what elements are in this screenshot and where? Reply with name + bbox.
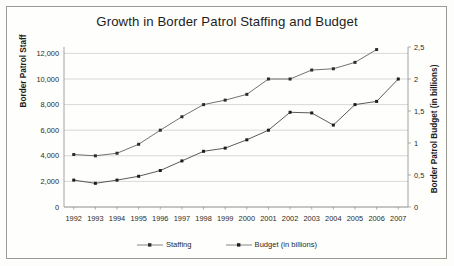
y-axis-left-tick-label: 4,000: [19, 151, 59, 160]
data-point: [202, 150, 205, 153]
y-axis-left-title: Border Patrol Staff: [18, 34, 27, 107]
y-axis-left-title-wrapper: Border Patrol Staff: [22, 70, 23, 71]
chart-legend: Staffing Budget (in billions): [0, 240, 454, 249]
y-axis-left-tick-label: 8,000: [19, 100, 59, 109]
y-axis-right-tick-label: 1: [414, 139, 444, 148]
x-axis-tick-label: 2007: [383, 214, 413, 223]
data-point: [289, 111, 292, 114]
y-axis-right-tick-label: 1,5: [414, 107, 444, 116]
data-point: [94, 182, 97, 185]
data-point: [224, 147, 227, 150]
data-point: [267, 78, 270, 81]
plot-area: [64, 47, 408, 207]
data-point: [159, 129, 162, 132]
y-axis-left-tick-label: 2,000: [19, 177, 59, 186]
series-line-staffing: [74, 50, 377, 156]
data-point: [267, 129, 270, 132]
y-axis-left-tick-label: 10,000: [19, 75, 59, 84]
data-point: [310, 111, 313, 114]
chart-title: Growth in Border Patrol Staffing and Bud…: [0, 14, 454, 29]
legend-label-budget: Budget (in billions): [255, 240, 317, 249]
legend-marker-budget: [226, 241, 252, 249]
y-axis-right-tick-label: 0: [414, 203, 444, 212]
data-point: [180, 115, 183, 118]
plot-svg: [64, 47, 408, 207]
data-point: [137, 175, 140, 178]
data-point: [224, 99, 227, 102]
y-axis-left-tick-label: 12,000: [19, 49, 59, 58]
data-point: [94, 154, 97, 157]
legend-marker-staffing: [137, 241, 163, 249]
y-axis-right-tick-label: 2: [414, 75, 444, 84]
data-point: [397, 78, 400, 81]
data-point: [202, 103, 205, 106]
chart-figure: Growth in Border Patrol Staffing and Bud…: [0, 0, 454, 266]
y-axis-left-tick-label: 0: [19, 203, 59, 212]
data-point: [353, 61, 356, 64]
legend-item-budget: Budget (in billions): [226, 240, 317, 249]
data-point: [159, 169, 162, 172]
data-point: [375, 48, 378, 51]
series-line-budget-in-billions: [74, 79, 399, 183]
data-point: [72, 153, 75, 156]
y-axis-right-tick-label: 0,5: [414, 171, 444, 180]
legend-item-staffing: Staffing: [137, 240, 192, 249]
data-point: [116, 152, 119, 155]
data-point: [353, 103, 356, 106]
data-point: [332, 67, 335, 70]
legend-label-staffing: Staffing: [166, 240, 192, 249]
y-axis-right-tick-label: 2,5: [414, 43, 444, 52]
data-point: [245, 138, 248, 141]
data-point: [137, 143, 140, 146]
data-point: [332, 124, 335, 127]
data-point: [72, 179, 75, 182]
data-point: [310, 69, 313, 72]
data-point: [180, 159, 183, 162]
data-point: [245, 93, 248, 96]
y-axis-left-tick-label: 6,000: [19, 126, 59, 135]
data-point: [375, 100, 378, 103]
y-axis-right-title-wrapper: Border Patrol Budget (in billions): [433, 128, 434, 129]
data-point: [289, 78, 292, 81]
data-point: [116, 179, 119, 182]
